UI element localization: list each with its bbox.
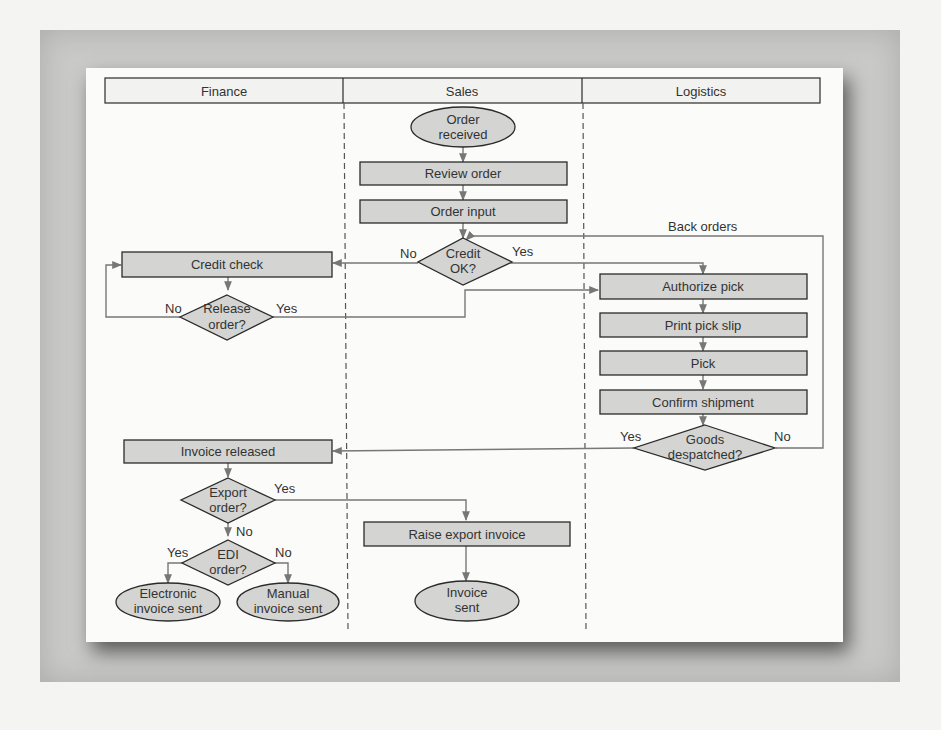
svg-text:Credit: Credit [446, 246, 481, 261]
node-order-input: Order input [360, 200, 567, 223]
svg-text:OK?: OK? [450, 261, 476, 276]
lane-header-row: Finance Sales Logistics [105, 78, 820, 103]
edge-label-export-yes: Yes [274, 481, 296, 496]
edge-label-release-yes: Yes [276, 301, 298, 316]
svg-text:Review order: Review order [425, 166, 502, 181]
svg-text:Invoice released: Invoice released [181, 444, 276, 459]
svg-text:Authorize pick: Authorize pick [662, 279, 744, 294]
edge-label-edi-yes: Yes [167, 545, 189, 560]
edge-label-export-no: No [236, 524, 253, 539]
edge-label-edi-no: No [275, 545, 292, 560]
edge-label-back-orders: Back orders [668, 219, 738, 234]
edge-label-credit-yes: Yes [512, 244, 534, 259]
lane-divider-finance-sales [344, 103, 348, 630]
node-edi-order: EDI order? [182, 540, 275, 585]
svg-text:Raise export invoice: Raise export invoice [408, 527, 525, 542]
svg-text:Release: Release [203, 301, 251, 316]
edge-label-credit-no: No [400, 246, 417, 261]
svg-text:Order input: Order input [430, 204, 495, 219]
svg-text:Print pick slip: Print pick slip [665, 318, 742, 333]
svg-text:Confirm shipment: Confirm shipment [652, 395, 754, 410]
node-confirm-shipment: Confirm shipment [600, 390, 807, 414]
node-invoice-sent: Invoice sent [415, 581, 519, 621]
node-credit-ok: Credit OK? [418, 238, 512, 285]
node-print-pick-slip: Print pick slip [600, 313, 807, 337]
svg-text:order?: order? [209, 500, 247, 515]
node-electronic-invoice-sent: Electronic invoice sent [116, 583, 220, 621]
lane-divider-sales-logistics [583, 103, 586, 630]
lane-title-finance: Finance [201, 84, 247, 99]
node-release-order: Release order? [180, 295, 273, 340]
node-pick: Pick [600, 351, 807, 375]
node-invoice-released: Invoice released [124, 440, 332, 463]
svg-text:received: received [438, 127, 487, 142]
node-manual-invoice-sent: Manual invoice sent [237, 583, 339, 621]
svg-text:Manual: Manual [267, 586, 310, 601]
svg-text:order?: order? [208, 317, 246, 332]
node-authorize-pick: Authorize pick [600, 274, 807, 299]
svg-text:invoice sent: invoice sent [134, 601, 203, 616]
svg-text:Credit check: Credit check [191, 257, 264, 272]
node-credit-check: Credit check [122, 252, 332, 277]
node-export-order: Export order? [181, 478, 275, 523]
lane-title-sales: Sales [446, 84, 479, 99]
node-raise-export-invoice: Raise export invoice [364, 522, 570, 546]
node-review-order: Review order [360, 162, 567, 185]
svg-text:EDI: EDI [217, 547, 239, 562]
svg-text:Export: Export [209, 485, 247, 500]
svg-text:Invoice: Invoice [446, 585, 487, 600]
node-order-received: Order received [411, 107, 515, 147]
svg-text:Order: Order [446, 112, 480, 127]
edge-label-goods-yes: Yes [620, 429, 642, 444]
svg-text:invoice sent: invoice sent [254, 601, 323, 616]
svg-text:Electronic: Electronic [139, 586, 197, 601]
swimlane-flowchart: Finance Sales Logistics [0, 0, 941, 730]
node-goods-despatched: Goods despatched? [634, 425, 775, 470]
edge-label-release-no: No [165, 301, 182, 316]
svg-text:order?: order? [209, 562, 247, 577]
lane-title-logistics: Logistics [676, 84, 727, 99]
svg-text:despatched?: despatched? [668, 447, 742, 462]
svg-text:sent: sent [455, 600, 480, 615]
svg-text:Pick: Pick [691, 356, 716, 371]
edge-label-goods-no: No [774, 429, 791, 444]
svg-text:Goods: Goods [686, 432, 725, 447]
